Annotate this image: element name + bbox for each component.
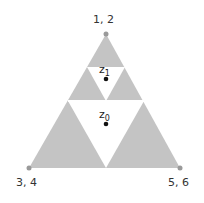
vertex-dot-right	[178, 166, 183, 171]
sierpinski-diagram: 1, 2 3, 4 5, 6 z1 z0	[0, 0, 204, 203]
point-label-z0: z0	[99, 108, 110, 123]
vertex-label-right: 5, 6	[168, 176, 189, 189]
z1-sub: 1	[105, 69, 110, 78]
vertex-label-left: 3, 4	[16, 176, 37, 189]
triangle-graphic	[0, 0, 204, 203]
vertex-label-top: 1, 2	[93, 13, 114, 26]
vertex-dot-left	[27, 166, 32, 171]
point-label-z1: z1	[99, 63, 110, 78]
vertex-dot-top	[104, 32, 109, 37]
z0-sub: 0	[105, 114, 110, 123]
